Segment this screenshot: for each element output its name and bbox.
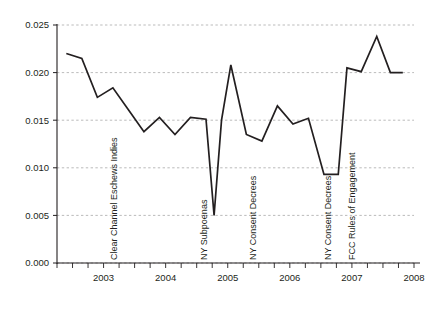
x-tick-label-1: 2004 bbox=[155, 272, 176, 283]
annotation-label-3: NY Consent Decrees bbox=[323, 175, 333, 260]
y-tick-label-4: 0.020 bbox=[25, 67, 49, 78]
x-tick-label-3: 2006 bbox=[279, 272, 300, 283]
y-tick-label-3: 0.015 bbox=[25, 115, 49, 126]
y-tick-label-0: 0.000 bbox=[25, 257, 49, 268]
x-axis-ticks bbox=[57, 263, 414, 268]
x-tick-label-2: 2005 bbox=[217, 272, 238, 283]
annotation-label-0: Clear Channel Eschews Indies bbox=[109, 137, 119, 260]
annotation-label-4: FCC Rules of Engagement bbox=[347, 152, 357, 260]
x-tick-label-5: 2008 bbox=[403, 272, 424, 283]
y-axis-tick-labels: 0.0000.0050.0100.0150.0200.025 bbox=[25, 19, 49, 268]
y-tick-label-1: 0.005 bbox=[25, 210, 49, 221]
event-annotations: Clear Channel Eschews IndiesNY Subpoenas… bbox=[109, 137, 357, 260]
x-tick-label-0: 2003 bbox=[93, 272, 114, 283]
x-axis-tick-labels: 200320042005200620072008 bbox=[93, 272, 425, 283]
y-tick-label-5: 0.025 bbox=[25, 19, 49, 30]
y-tick-label-2: 0.010 bbox=[25, 162, 49, 173]
x-tick-label-4: 2007 bbox=[341, 272, 362, 283]
annotation-label-2: NY Consent Decrees bbox=[248, 175, 258, 260]
line-chart: 0.0000.0050.0100.0150.0200.025 200320042… bbox=[0, 0, 430, 310]
annotation-label-1: NY Subpoenas bbox=[199, 199, 209, 260]
y-axis-ticks bbox=[53, 25, 57, 263]
chart-container: 0.0000.0050.0100.0150.0200.025 200320042… bbox=[0, 0, 430, 310]
